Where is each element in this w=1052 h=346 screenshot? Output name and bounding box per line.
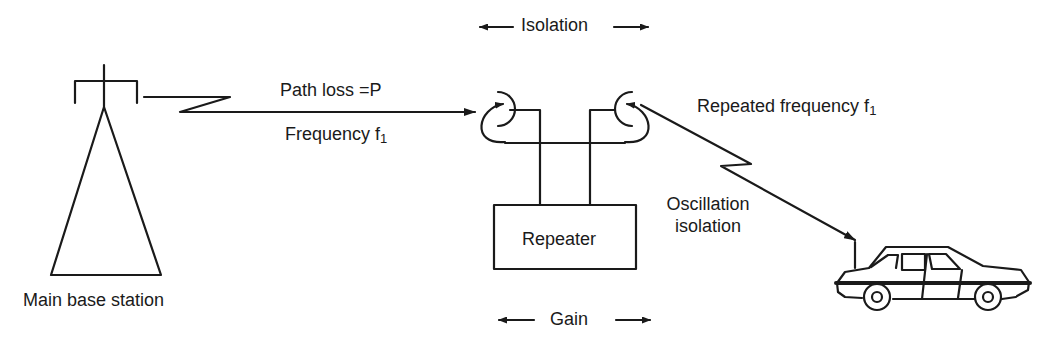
transmit-antenna-icon [590,92,649,205]
car-icon [836,242,1030,310]
frequency-subscript: 1 [380,131,387,146]
repeater-label: Repeater [522,230,596,248]
receive-antenna-icon [481,92,540,205]
isolation-label: Isolation [521,16,588,34]
oscillation-line-1: Oscillation [653,193,763,215]
repeated-frequency-label: Repeated frequency f1 [697,97,876,117]
repeated-frequency-subscript: 1 [869,103,876,118]
main-base-station-label: Main base station [23,291,164,309]
oscillation-isolation-label: Oscillation isolation [653,193,763,237]
oscillation-line-2: isolation [653,215,763,237]
gain-label: Gain [550,310,588,328]
repeated-frequency-text: Repeated frequency f [697,96,869,116]
frequency-label: Frequency f1 [285,125,387,145]
path-loss-label: Path loss =P [280,81,382,99]
frequency-text: Frequency f [285,124,380,144]
